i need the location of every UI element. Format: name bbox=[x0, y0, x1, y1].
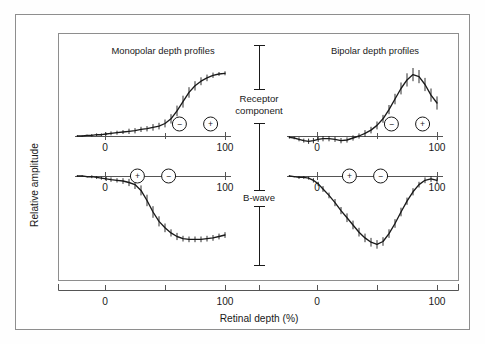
polarity-sign: + bbox=[420, 119, 425, 129]
bottom-axis-tick-label-2: 0 bbox=[314, 296, 320, 307]
bottom-axis-tick-label-0: 0 bbox=[102, 296, 108, 307]
polarity-sign: + bbox=[135, 171, 140, 181]
axis-tick-label-bipolar-receptor-100: 100 bbox=[429, 142, 446, 153]
depth-profile-plot: 0100010001000100−+−++−+−Monopolar depth … bbox=[0, 0, 485, 344]
b-wave-label: B-wave bbox=[243, 192, 275, 203]
receptor-component-bracket-lower bbox=[254, 123, 265, 191]
series-bipolar-receptor bbox=[289, 68, 437, 144]
bottom-axis-tick-label-3: 100 bbox=[429, 296, 446, 307]
polarity-plus-marker-monopolar-receptor: + bbox=[204, 117, 218, 131]
panel-title-monopolar-receptor: Monopolar depth profiles bbox=[111, 45, 215, 56]
polarity-sign: + bbox=[347, 171, 352, 181]
polarity-sign: − bbox=[166, 171, 171, 181]
panel-monopolar-bwave: 0100 bbox=[75, 172, 234, 193]
panel-bipolar-receptor: 0100 bbox=[287, 132, 446, 153]
axis-tick-label-bipolar-receptor-0: 0 bbox=[314, 142, 320, 153]
bottom-axis-tick-label-1: 100 bbox=[217, 296, 234, 307]
polarity-minus-marker-monopolar-bwave: − bbox=[162, 169, 176, 183]
polarity-sign: − bbox=[389, 119, 394, 129]
polarity-minus-marker-bipolar-receptor: − bbox=[384, 117, 398, 131]
curve-monopolar-receptor bbox=[77, 73, 225, 136]
axis-tick-label-monopolar-receptor-0: 0 bbox=[102, 142, 108, 153]
polarity-minus-marker-bipolar-bwave: − bbox=[374, 169, 388, 183]
curve-bipolar-receptor bbox=[289, 75, 437, 142]
receptor-component-bracket-upper bbox=[254, 45, 265, 90]
inner-plot-box bbox=[59, 34, 459, 281]
receptor-component-label-line2: component bbox=[235, 105, 283, 116]
polarity-plus-marker-bipolar-bwave: + bbox=[342, 169, 356, 183]
bottom-axis: 01000100 bbox=[59, 284, 459, 307]
receptor-component-label-line1: Receptor bbox=[240, 93, 280, 104]
polarity-sign: − bbox=[378, 171, 383, 181]
polarity-sign: − bbox=[177, 119, 182, 129]
polarity-sign: + bbox=[208, 119, 213, 129]
b-wave-bracket bbox=[254, 206, 265, 266]
axis-tick-label-monopolar-bwave-100: 100 bbox=[217, 182, 234, 193]
polarity-plus-marker-bipolar-receptor: + bbox=[416, 117, 430, 131]
series-monopolar-receptor bbox=[77, 71, 225, 136]
series-bipolar-bwave bbox=[289, 175, 437, 248]
axis-tick-label-monopolar-bwave-0: 0 bbox=[102, 182, 108, 193]
curve-monopolar-bwave bbox=[77, 176, 225, 239]
polarity-plus-marker-monopolar-bwave: + bbox=[130, 169, 144, 183]
axis-tick-label-bipolar-bwave-100: 100 bbox=[429, 182, 446, 193]
figure-container: 0100010001000100−+−++−+−Monopolar depth … bbox=[0, 0, 485, 344]
panel-title-bipolar-receptor: Bipolar depth profiles bbox=[331, 45, 419, 56]
polarity-minus-marker-monopolar-receptor: − bbox=[172, 117, 186, 131]
x-axis-title: Retinal depth (%) bbox=[220, 313, 299, 324]
series-monopolar-bwave bbox=[77, 175, 225, 242]
curve-bipolar-bwave bbox=[289, 176, 437, 244]
axis-tick-label-monopolar-receptor-100: 100 bbox=[217, 142, 234, 153]
y-axis-title: Relative amplitude bbox=[29, 143, 40, 227]
